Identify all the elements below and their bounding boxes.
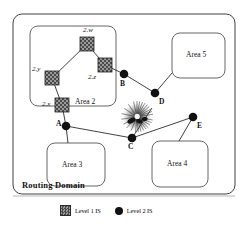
- network-failure-burst-icon: [121, 101, 153, 132]
- level1-node-2z[interactable]: [98, 58, 112, 72]
- level1-node-2y[interactable]: [45, 71, 59, 85]
- level2-node-C-label: C: [128, 143, 133, 151]
- area-2-label: Area 2: [75, 98, 95, 106]
- legend-item-level1-label: Level 1 IS: [75, 207, 101, 214]
- level1-node-2x[interactable]: [55, 98, 69, 112]
- level2-node-B[interactable]: [120, 70, 129, 79]
- level1-node-2z-label: 2.z: [88, 74, 96, 81]
- level2-node-A-label: A: [56, 120, 61, 128]
- legend-item-level2-label: Level 2 IS: [127, 207, 153, 214]
- level2-node-C[interactable]: [128, 134, 137, 143]
- area-4-label: Area 4: [167, 160, 187, 168]
- area-3-label: Area 3: [62, 161, 82, 169]
- area-5-label: Area 5: [186, 51, 206, 59]
- routing-domain-label: Routing Domain: [22, 181, 85, 190]
- level2-node-D[interactable]: [151, 89, 160, 98]
- level2-node-E-label: E: [197, 122, 202, 130]
- diagram-canvas: 2.w 2.z 2.y 2.x A B C D E Area 2 Area 5 …: [0, 0, 249, 228]
- legend: Level 1 IS Level 2 IS: [60, 205, 167, 216]
- level2-circle-icon: [115, 207, 123, 215]
- level2-node-B-label: B: [120, 80, 125, 88]
- level1-node-2y-label: 2.y: [32, 66, 40, 73]
- level1-node-2w-label: 2.w: [83, 27, 93, 34]
- level2-node-E[interactable]: [189, 113, 198, 122]
- link-B-D: [124, 74, 155, 93]
- legend-item-level2: Level 2 IS: [115, 207, 153, 215]
- level1-node-2w[interactable]: [80, 37, 94, 51]
- level1-square-icon: [60, 205, 71, 216]
- link-A-C: [66, 126, 132, 138]
- routing-domain-diagram: [0, 0, 249, 228]
- level2-node-A[interactable]: [62, 122, 71, 131]
- level1-node-2x-label: 2.x: [42, 101, 50, 108]
- legend-item-level1: Level 1 IS: [60, 205, 101, 216]
- level2-node-D-label: D: [159, 98, 164, 106]
